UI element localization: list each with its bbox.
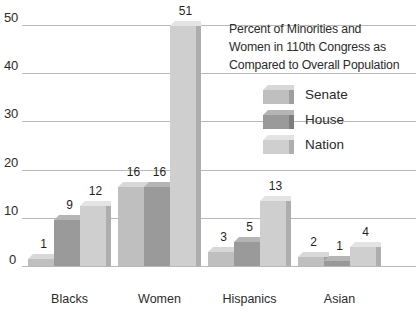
legend-swatch-house-icon xyxy=(263,110,294,129)
chart-title-line-3: Compared to Overall Population xyxy=(229,57,400,74)
value-label-blacks-nation: 12 xyxy=(80,184,111,198)
legend-swatch-senate-icon xyxy=(263,85,294,104)
bar-women-senate[interactable] xyxy=(118,182,144,266)
bar-hispanics-house[interactable] xyxy=(234,237,260,266)
x-axis-label-hispanics: Hispanics xyxy=(208,292,291,306)
x-axis-label-asian: Asian xyxy=(298,292,381,306)
legend-label-nation: Nation xyxy=(305,137,344,152)
bar-face-front xyxy=(298,257,324,266)
y-axis-tick-20: 20 xyxy=(4,155,34,170)
y-axis-tick-40: 40 xyxy=(4,58,34,73)
value-label-hispanics-nation: 13 xyxy=(260,179,291,193)
bar-face-side xyxy=(106,206,111,266)
bar-women-nation[interactable] xyxy=(170,21,196,266)
x-axis-label-blacks: Blacks xyxy=(28,292,111,306)
bar-face-side xyxy=(196,26,201,266)
bar-face-front xyxy=(350,247,376,266)
gridline-20 xyxy=(22,170,416,171)
bar-chart: 50 40 30 20 10 0 1 9 12 Blacks 16 16 xyxy=(0,0,416,324)
x-axis-label-women: Women xyxy=(118,292,201,306)
bar-asian-house[interactable] xyxy=(324,256,350,266)
value-label-asian-nation: 4 xyxy=(350,225,381,239)
bar-blacks-nation[interactable] xyxy=(80,201,106,266)
chart-title-line-1: Percent of Minorities and xyxy=(229,21,361,38)
bar-blacks-house[interactable] xyxy=(54,215,80,266)
bar-asian-senate[interactable] xyxy=(298,252,324,266)
legend-item-senate[interactable]: Senate xyxy=(263,85,383,107)
bar-face-front xyxy=(234,242,260,266)
bar-face-side xyxy=(286,201,291,266)
bar-face-front xyxy=(118,187,144,266)
bar-face-front xyxy=(208,252,234,266)
gridline-0 xyxy=(22,266,416,267)
bar-face-front xyxy=(324,261,350,266)
value-label-women-nation: 51 xyxy=(170,4,201,18)
legend-item-nation[interactable]: Nation xyxy=(263,135,383,157)
bar-face-front xyxy=(54,220,80,266)
bar-asian-nation[interactable] xyxy=(350,242,376,266)
bar-face-side xyxy=(376,247,381,266)
legend-label-senate: Senate xyxy=(305,87,348,102)
legend-item-house[interactable]: House xyxy=(263,110,383,132)
bar-face-front xyxy=(170,26,196,266)
legend-label-house: House xyxy=(305,112,344,127)
y-axis-tick-10: 10 xyxy=(4,203,34,218)
bar-hispanics-nation[interactable] xyxy=(260,196,286,266)
bar-face-front xyxy=(80,206,106,266)
bar-face-front xyxy=(28,259,54,266)
bar-blacks-senate[interactable] xyxy=(28,254,54,266)
y-axis-tick-30: 30 xyxy=(4,106,34,121)
legend-swatch-nation-icon xyxy=(263,135,294,154)
chart-title-line-2: Women in 110th Congress as xyxy=(229,39,386,56)
bar-hispanics-senate[interactable] xyxy=(208,247,234,266)
bar-face-front xyxy=(144,187,170,266)
y-axis-tick-50: 50 xyxy=(4,10,34,25)
bar-women-house[interactable] xyxy=(144,182,170,266)
bar-face-front xyxy=(260,201,286,266)
